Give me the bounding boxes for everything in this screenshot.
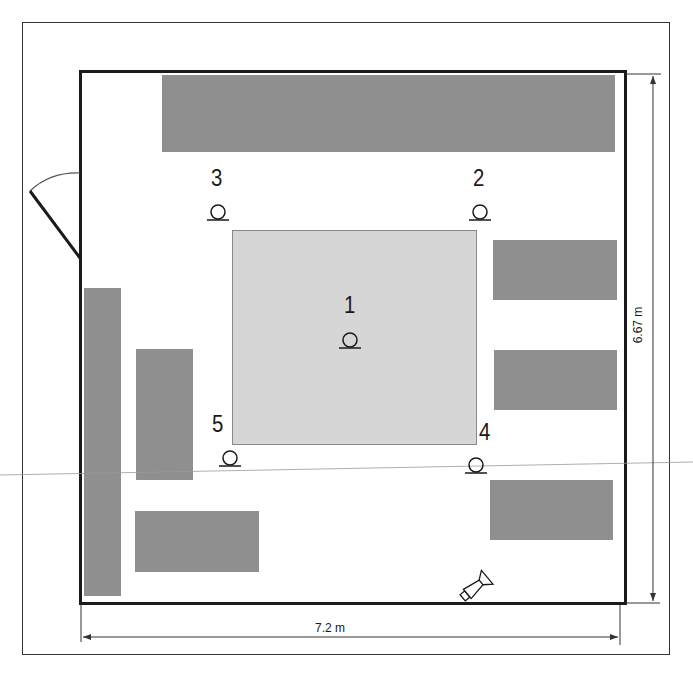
microphone-icon-2 xyxy=(469,205,491,220)
plan-vectors xyxy=(0,0,693,675)
mic-label-3: 3 xyxy=(211,166,222,190)
microphone-icon-1 xyxy=(339,333,361,348)
microphone-icon-4 xyxy=(465,458,487,473)
mic-label-1: 1 xyxy=(344,293,355,317)
microphone-icon-5 xyxy=(219,451,241,466)
mic-label-2: 2 xyxy=(473,166,484,190)
mic-label-4: 4 xyxy=(479,420,490,444)
width-dimension-label: 7.2 m xyxy=(315,621,345,635)
door-icon xyxy=(30,173,80,258)
width-dimension xyxy=(81,605,620,645)
speaker-icon xyxy=(457,570,493,604)
height-dimension-label: 6.67 m xyxy=(631,305,645,345)
stray-line xyxy=(0,462,693,475)
mic-label-5: 5 xyxy=(212,412,223,436)
microphone-icon-3 xyxy=(207,205,229,220)
